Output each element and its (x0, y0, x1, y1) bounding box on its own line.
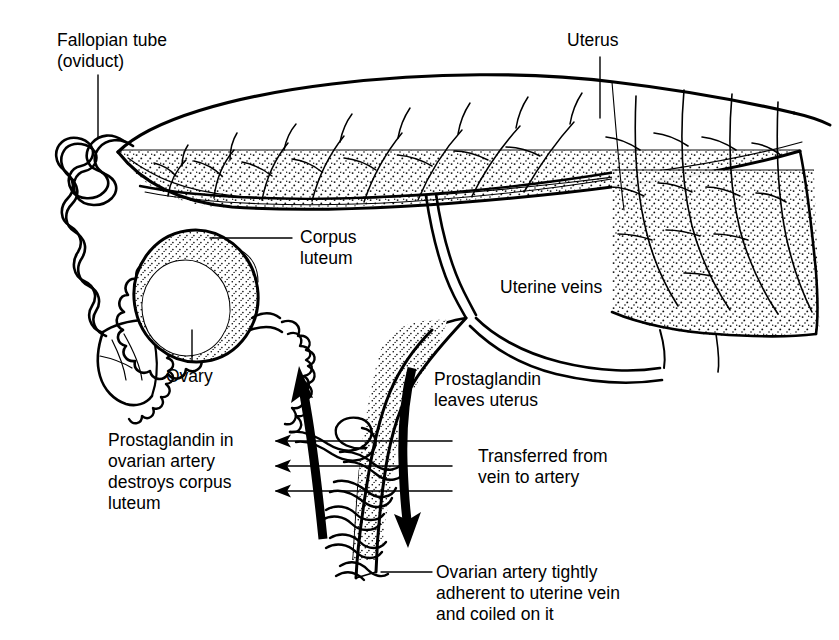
label-pg-destroys-line2: ovarian artery (108, 451, 215, 471)
label-ovary-line1: Ovary (166, 366, 213, 386)
label-transferred-line1: Transferred from (478, 446, 608, 466)
label-transferred-line2: vein to artery (478, 467, 579, 487)
uterine-body (600, 82, 839, 372)
fallopian-tube (56, 136, 133, 336)
label-prostaglandin-leaves-uterus-line1: Prostaglandin (434, 369, 541, 389)
arrow-prostaglandin-to-ovary (291, 366, 323, 539)
label-corpus-luteum: Corpusluteum (300, 227, 356, 269)
label-uterus-line1: Uterus (567, 30, 619, 50)
label-fallopian-tube-line1: Fallopian tube (57, 30, 167, 50)
label-pg-destroys-line1: Prostaglandin in (108, 430, 234, 450)
label-prostaglandin-leaves-uterus: Prostaglandinleaves uterus (434, 369, 541, 411)
label-corpus-luteum-line2: luteum (300, 248, 353, 268)
label-uterine-veins: Uterine veins (500, 277, 602, 298)
figure-canvas: Fallopian tube(oviduct) Uterus Corpuslut… (0, 0, 839, 640)
label-uterine-veins-line1: Uterine veins (500, 277, 602, 297)
label-fallopian-tube-line2: (oviduct) (57, 51, 124, 71)
label-ovarian-artery-line2: adherent to uterine vein (436, 583, 620, 603)
label-uterus: Uterus (567, 30, 619, 51)
ovary (125, 222, 270, 370)
label-corpus-luteum-line1: Corpus (300, 227, 356, 247)
label-transferred-vein-to-artery: Transferred fromvein to artery (478, 446, 608, 488)
label-ovarian-artery-line3: and coiled on it (436, 604, 554, 624)
label-ovary: Ovary (166, 366, 213, 387)
label-prostaglandin-destroys-corpus-luteum: Prostaglandin inovarian arterydestroys c… (108, 430, 234, 514)
label-pg-destroys-line4: luteum (108, 493, 161, 513)
anatomy-illustration (0, 0, 839, 640)
label-ovarian-artery-line1: Ovarian artery tightly (436, 562, 597, 582)
label-fallopian-tube: Fallopian tube(oviduct) (57, 30, 167, 72)
label-pg-destroys-line3: destroys corpus (108, 472, 232, 492)
label-ovarian-artery-coiled: Ovarian artery tightlyadherent to uterin… (436, 562, 620, 625)
label-prostaglandin-leaves-uterus-line2: leaves uterus (434, 390, 538, 410)
